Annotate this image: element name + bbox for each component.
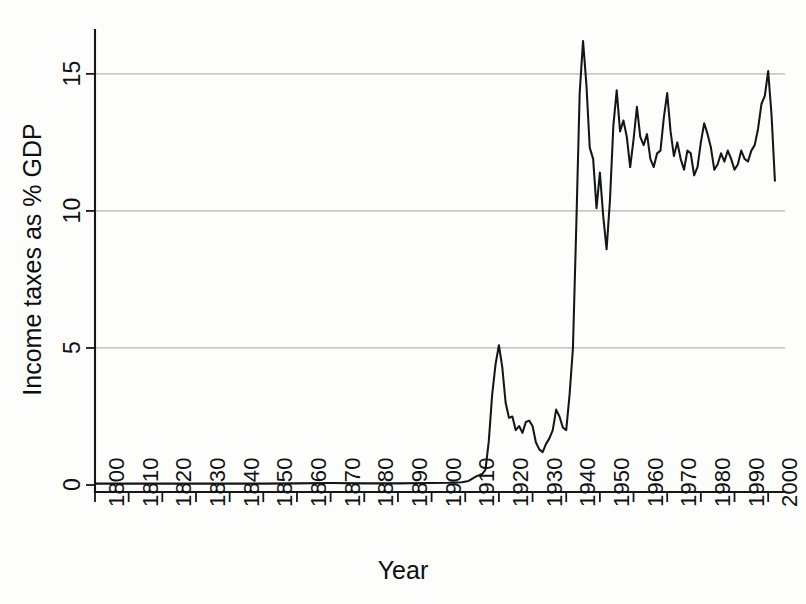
- axis-ticks-group: [86, 74, 768, 502]
- x-axis-title: Year: [0, 556, 806, 585]
- x-tick-label-1930: 1930: [542, 457, 568, 507]
- x-tick-label-1850: 1850: [272, 457, 298, 507]
- x-tick-label-1820: 1820: [171, 457, 197, 507]
- y-axis-title: Income taxes as % GDP: [18, 95, 47, 425]
- x-tick-label-1870: 1870: [340, 457, 366, 507]
- axis-lines-group: [95, 30, 785, 492]
- y-tick-label-10: 10: [59, 180, 86, 240]
- x-tick-label-1890: 1890: [407, 457, 433, 507]
- data-series-group: [95, 41, 775, 484]
- x-tick-label-1960: 1960: [643, 457, 669, 507]
- x-tick-label-2000: 2000: [777, 457, 803, 507]
- x-tick-label-1950: 1950: [609, 457, 635, 507]
- x-tick-label-1920: 1920: [508, 457, 534, 507]
- x-tick-label-1840: 1840: [239, 457, 265, 507]
- x-tick-label-1800: 1800: [104, 457, 130, 507]
- data-line-series-0: [95, 41, 775, 484]
- x-tick-label-1810: 1810: [138, 457, 164, 507]
- gridlines-group: [95, 74, 785, 348]
- x-tick-label-1910: 1910: [474, 457, 500, 507]
- x-tick-label-1970: 1970: [676, 457, 702, 507]
- x-tick-label-1830: 1830: [205, 457, 231, 507]
- x-tick-label-1880: 1880: [373, 457, 399, 507]
- x-tick-label-1940: 1940: [575, 457, 601, 507]
- y-tick-label-0: 0: [59, 455, 86, 515]
- x-tick-label-1990: 1990: [744, 457, 770, 507]
- x-tick-label-1980: 1980: [710, 457, 736, 507]
- chart-plot-area: [0, 0, 806, 604]
- x-tick-label-1900: 1900: [441, 457, 467, 507]
- y-tick-label-15: 15: [59, 43, 86, 103]
- y-tick-label-5: 5: [59, 317, 86, 377]
- x-tick-label-1860: 1860: [306, 457, 332, 507]
- chart-figure: 051015 180018101820183018401850186018701…: [0, 0, 806, 604]
